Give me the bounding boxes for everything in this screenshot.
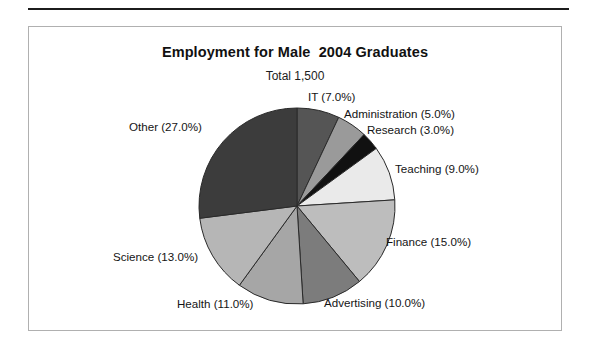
pie-slice-other[interactable] [199, 108, 297, 218]
pie-chart-svg [29, 27, 563, 332]
pie-chart-plot-area: IT (7.0%) Administration (5.0%) Research… [29, 27, 563, 332]
slice-label-it: IT (7.0%) [308, 91, 355, 104]
slice-label-science: Science (13.0%) [113, 251, 198, 264]
slice-label-administration: Administration (5.0%) [344, 108, 455, 121]
slice-label-other: Other (27.0%) [129, 121, 202, 134]
slice-label-finance: Finance (15.0%) [386, 236, 471, 249]
slice-label-research: Research (3.0%) [367, 124, 454, 137]
page-root: Employment for Male 2004 Graduates Total… [0, 0, 597, 351]
slice-label-teaching: Teaching (9.0%) [395, 163, 479, 176]
pie-slice-group [199, 108, 395, 304]
slice-label-advertising: Advertising (10.0%) [324, 297, 425, 310]
header-divider [28, 8, 569, 10]
chart-frame: Employment for Male 2004 Graduates Total… [28, 26, 562, 331]
slice-label-health: Health (11.0%) [177, 298, 253, 311]
